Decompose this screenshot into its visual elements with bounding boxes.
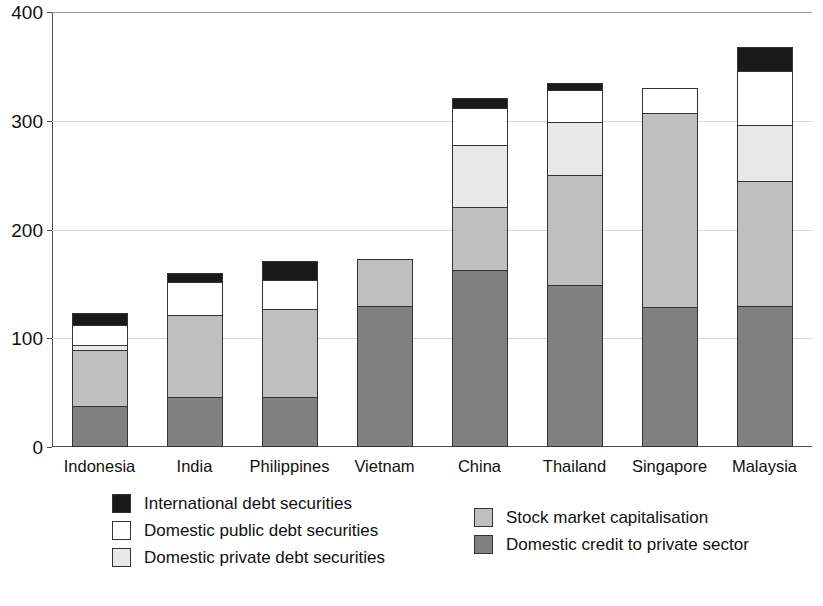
bar-stack[interactable] <box>72 313 128 447</box>
bar-segment[interactable] <box>737 125 793 180</box>
bar-segment[interactable] <box>452 270 508 447</box>
y-axis-label-300: 300 <box>11 111 43 130</box>
domestic-public-debt-swatch <box>112 521 131 540</box>
legend-label: Stock market capitalisation <box>506 509 708 526</box>
bar-group[interactable]: Malaysia <box>737 12 793 447</box>
legend-column-right: Stock market capitalisationDomestic cred… <box>474 504 812 558</box>
bar-segment[interactable] <box>452 145 508 207</box>
bar-segment[interactable] <box>167 315 223 397</box>
bar-segment[interactable] <box>547 175 603 285</box>
bar-segment[interactable] <box>547 83 603 91</box>
bar-segment[interactable] <box>357 306 413 447</box>
bar-segment[interactable] <box>642 307 698 447</box>
legend-label: Domestic public debt securities <box>144 522 378 539</box>
bar-segment[interactable] <box>262 309 318 397</box>
bar-stack[interactable] <box>167 273 223 447</box>
legend-item[interactable]: Domestic credit to private sector <box>474 531 812 558</box>
bar-segment[interactable] <box>547 285 603 447</box>
bar-segment[interactable] <box>167 397 223 447</box>
bar-segment[interactable] <box>737 71 793 125</box>
bar-segment[interactable] <box>357 259 413 306</box>
x-axis-label-singapore: Singapore <box>632 458 707 475</box>
legend-label: International debt securities <box>144 495 352 512</box>
bars-layer: IndonesiaIndiaPhilippinesVietnamChinaTha… <box>52 12 812 447</box>
bar-segment[interactable] <box>262 280 318 309</box>
y-axis-label-200: 200 <box>11 220 43 239</box>
bar-segment[interactable] <box>262 261 318 279</box>
stacked-bar-chart: 0100200300400 IndonesiaIndiaPhilippinesV… <box>0 0 823 606</box>
y-axis-label-0: 0 <box>32 438 43 457</box>
domestic-private-debt-swatch <box>112 548 131 567</box>
bar-group[interactable]: Philippines <box>262 12 318 447</box>
legend-item[interactable]: Stock market capitalisation <box>474 504 812 531</box>
bar-segment[interactable] <box>737 306 793 447</box>
legend-item[interactable]: Domestic private debt securities <box>112 544 474 571</box>
bar-segment[interactable] <box>72 325 128 345</box>
chart-legend: International debt securitiesDomestic pu… <box>112 517 812 544</box>
y-tick-0 <box>47 447 52 448</box>
legend-label: Domestic private debt securities <box>144 549 385 566</box>
bar-segment[interactable] <box>452 207 508 270</box>
x-axis-label-china: China <box>458 458 501 475</box>
bar-segment[interactable] <box>452 108 508 145</box>
bar-group[interactable]: China <box>452 12 508 447</box>
x-axis-label-philippines: Philippines <box>250 458 330 475</box>
bar-segment[interactable] <box>547 122 603 175</box>
bar-stack[interactable] <box>642 88 698 447</box>
legend-item[interactable]: International debt securities <box>112 490 474 517</box>
stock-market-swatch <box>474 508 493 527</box>
bar-segment[interactable] <box>72 313 128 325</box>
bar-segment[interactable] <box>642 113 698 307</box>
bar-segment[interactable] <box>262 397 318 447</box>
y-axis-label-100: 100 <box>11 329 43 348</box>
y-axis-label-400: 400 <box>11 3 43 22</box>
x-axis-label-thailand: Thailand <box>543 458 606 475</box>
bar-group[interactable]: Thailand <box>547 12 603 447</box>
bar-group[interactable]: Singapore <box>642 12 698 447</box>
plot-area: 0100200300400 IndonesiaIndiaPhilippinesV… <box>52 12 812 447</box>
domestic-credit-swatch <box>474 535 493 554</box>
bar-stack[interactable] <box>357 259 413 447</box>
bar-group[interactable]: India <box>167 12 223 447</box>
bar-segment[interactable] <box>167 273 223 282</box>
bar-stack[interactable] <box>262 261 318 447</box>
bar-segment[interactable] <box>642 88 698 113</box>
bar-segment[interactable] <box>72 406 128 447</box>
bar-segment[interactable] <box>737 47 793 71</box>
bar-group[interactable]: Vietnam <box>357 12 413 447</box>
legend-label: Domestic credit to private sector <box>506 536 749 553</box>
bar-stack[interactable] <box>452 98 508 447</box>
x-axis-label-vietnam: Vietnam <box>354 458 414 475</box>
bar-segment[interactable] <box>737 181 793 306</box>
x-axis-label-malaysia: Malaysia <box>732 458 797 475</box>
bar-group[interactable]: Indonesia <box>72 12 128 447</box>
bar-segment[interactable] <box>547 90 603 122</box>
x-axis-label-indonesia: Indonesia <box>64 458 136 475</box>
bar-segment[interactable] <box>72 350 128 405</box>
bar-segment[interactable] <box>452 98 508 108</box>
bar-segment[interactable] <box>167 282 223 316</box>
x-axis-label-india: India <box>177 458 213 475</box>
legend-column-left: International debt securitiesDomestic pu… <box>112 490 474 571</box>
bar-stack[interactable] <box>547 83 603 447</box>
legend-item[interactable]: Domestic public debt securities <box>112 517 474 544</box>
international-debt-swatch <box>112 494 131 513</box>
bar-stack[interactable] <box>737 47 793 447</box>
